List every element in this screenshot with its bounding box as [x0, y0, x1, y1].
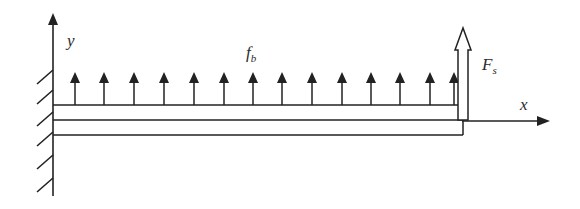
up-arrow-icon: [366, 72, 376, 83]
cantilever-beam-diagram: y x fb Fs: [0, 0, 580, 209]
up-arrow-icon: [219, 72, 229, 83]
point-force-label: Fs: [481, 55, 497, 76]
point-force-arrow-icon: [455, 28, 471, 120]
up-arrow-icon: [337, 72, 347, 83]
y-axis-label: y: [65, 31, 75, 50]
up-arrow-icon: [159, 72, 169, 83]
fixed-wall-support: [37, 22, 53, 196]
up-arrow-icon: [395, 72, 405, 83]
distributed-force-label: fb: [246, 43, 257, 64]
up-arrow-icon: [277, 72, 287, 83]
up-arrow-icon: [425, 72, 435, 83]
up-arrow-icon: [189, 72, 199, 83]
up-arrow-icon: [99, 72, 109, 83]
distributed-force-arrows: [70, 72, 459, 105]
y-axis-arrow-icon: [48, 13, 58, 25]
x-axis-label: x: [519, 95, 528, 114]
up-arrow-icon: [129, 72, 139, 83]
beam: [53, 105, 463, 135]
x-axis-arrow-icon: [537, 116, 550, 126]
up-arrow-icon: [307, 72, 317, 83]
up-arrow-icon: [248, 72, 258, 83]
up-arrow-icon: [70, 72, 80, 83]
